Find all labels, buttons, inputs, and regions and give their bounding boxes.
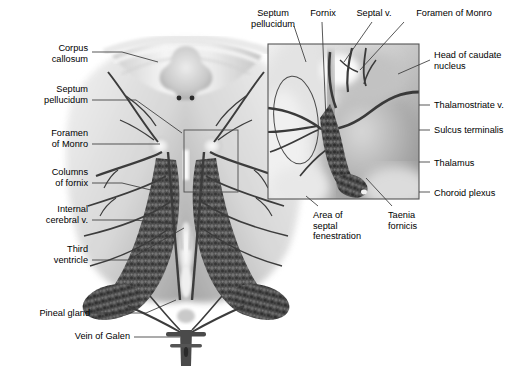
label-foramen-of-monro: Foramen of Monro	[12, 128, 88, 149]
label-choroid-plexus: Choroid plexus	[434, 188, 495, 199]
label-foramen-of-monro-inset: Foramen of Monro	[406, 8, 502, 19]
label-pineal-gland: Pineal gland	[14, 308, 90, 319]
label-sulcus-terminalis: Sulcus terminalis	[434, 125, 503, 136]
label-area-of-septal-fenestration: Area of septal fenestration	[313, 210, 375, 242]
main-illustration	[66, 38, 303, 366]
label-third-ventricle: Third ventricle	[20, 244, 88, 265]
paired-foramen-dot-left	[177, 96, 182, 101]
label-corpus-callosum: Corpus callosum	[18, 43, 88, 64]
label-internal-cerebral-vein: Internal cerebral v.	[8, 204, 88, 225]
label-septum-pellucidum: Septum pellucidum	[8, 84, 88, 105]
label-columns-of-fornix: Columns of fornix	[12, 167, 88, 188]
inset-panel	[256, 40, 430, 212]
paired-foramen-dot-right	[190, 96, 195, 101]
label-thalamostriate-vein: Thalamostriate v.	[434, 100, 504, 111]
label-fornix: Fornix	[304, 8, 342, 19]
label-taenia-fornicis: Taenia fornicis	[388, 210, 436, 231]
label-head-of-caudate-nucleus: Head of caudate nucleus	[434, 50, 501, 71]
pineal-gland-body	[177, 309, 195, 323]
label-thalamus: Thalamus	[434, 158, 474, 169]
label-septal-vein: Septal v.	[352, 8, 396, 19]
label-septum-pellucidum-inset: Septum pellucidum	[244, 8, 302, 29]
label-vein-of-galen: Vein of Galen	[52, 331, 130, 342]
